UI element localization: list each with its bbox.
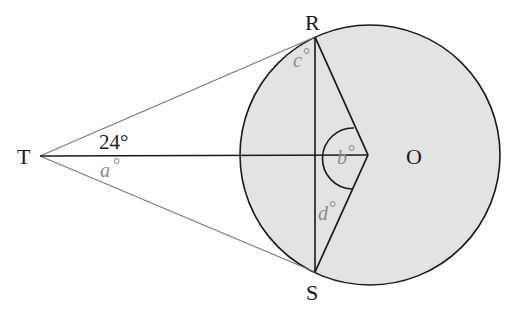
angle-d-deg: ° [329,198,336,218]
circle-tangent-diagram: R S T O 24° a° c° b° d° [0,0,509,312]
angle-b-deg: ° [348,142,355,162]
angle-b-var: b [337,146,347,168]
angle-c-var: c [293,49,302,71]
angle-d-var: d [318,202,329,224]
angle-c-deg: ° [303,45,310,65]
label-point-r: R [305,10,320,35]
label-angle-a: a° [100,155,120,181]
angle-a-deg: ° [113,155,120,175]
angle-a-var: a [100,159,110,181]
label-point-o: O [406,144,422,169]
label-angle-24: 24° [99,130,128,154]
label-point-s: S [306,280,318,305]
label-point-t: T [17,144,31,169]
